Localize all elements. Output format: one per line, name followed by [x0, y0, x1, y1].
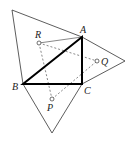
- label-b: B: [12, 81, 18, 92]
- label-q: Q: [101, 56, 109, 67]
- label-a: A: [79, 24, 87, 35]
- label-r: R: [34, 29, 41, 40]
- triangle-on-ab: [12, 10, 82, 84]
- triangle-abc: [23, 37, 82, 84]
- label-p: P: [46, 102, 53, 113]
- point-p: [50, 97, 54, 101]
- point-q: [95, 59, 99, 63]
- geometry-diagram: A B C P Q R: [0, 0, 135, 145]
- point-r: [37, 41, 41, 45]
- label-c: C: [84, 85, 91, 96]
